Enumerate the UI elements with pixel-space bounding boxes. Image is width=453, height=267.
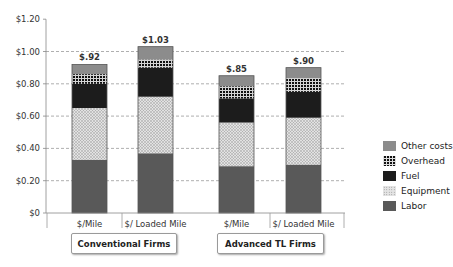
legend-item-fuel: Fuel (383, 168, 453, 183)
bar-stack: $.85 (219, 64, 254, 213)
bar-segment-other-costs (72, 64, 107, 74)
bars: $.92$1.03$.85$.90 (72, 35, 321, 213)
y-axis: $0$0.20$0.40$0.60$0.80$1.00$1.20 (16, 14, 46, 218)
stacked-bar-chart: $0$0.20$0.40$0.60$0.80$1.00$1.20 $.92$1.… (0, 0, 453, 267)
bar-segment-fuel (72, 84, 107, 108)
y-tick-label: $0.60 (16, 111, 40, 121)
bar-segment-labor (72, 160, 107, 213)
y-tick-label: $0.40 (16, 143, 40, 153)
bar-segment-labor (138, 153, 173, 213)
labor-swatch-icon (383, 201, 396, 211)
legend-item-labor: Labor (383, 198, 453, 213)
group-label-advanced-tl-firms: Advanced TL Firms (217, 233, 324, 254)
bar-stack: $.90 (286, 56, 321, 213)
group-label-conventional-firms: Conventional Firms (71, 233, 177, 254)
bar-stack: $.92 (72, 52, 107, 213)
bar-segment-overhead (219, 86, 254, 98)
bar-total-label: $1.03 (142, 35, 169, 45)
bar-stack: $1.03 (138, 35, 173, 213)
legend-item-overhead: Overhead (383, 153, 453, 168)
y-tick-label: $1.20 (16, 14, 40, 24)
bar-segment-other-costs (286, 68, 321, 78)
bar-segment-other-costs (138, 47, 173, 60)
category-label: $/ Loaded Mile (273, 219, 335, 229)
category-label: $/Mile (224, 219, 250, 229)
other-costs-swatch-icon (383, 141, 396, 151)
bar-segment-equipment (286, 118, 321, 165)
bar-segment-equipment (138, 97, 173, 154)
category-label: $/Mile (77, 219, 103, 229)
bar-segment-other-costs (219, 76, 254, 86)
bar-total-label: $.85 (226, 64, 247, 74)
bar-total-label: $.90 (293, 56, 314, 66)
bar-segment-fuel (138, 68, 173, 97)
legend-item-other-costs: Other costs (383, 138, 453, 153)
y-tick-label: $0.20 (16, 176, 40, 186)
bar-segment-overhead (72, 74, 107, 84)
bar-segment-overhead (138, 60, 173, 68)
bar-segment-equipment (72, 108, 107, 160)
legend-item-equipment: Equipment (383, 183, 453, 198)
bar-segment-fuel (286, 92, 321, 118)
category-label: $/ Loaded Mile (125, 219, 187, 229)
equipment-swatch-icon (383, 186, 396, 196)
bar-segment-fuel (219, 98, 254, 122)
x-axis: $/Mile$/ Loaded Mile$/Mile$/ Loaded Mile (46, 213, 345, 229)
bar-segment-equipment (219, 123, 254, 167)
overhead-swatch-icon (383, 156, 396, 166)
bar-total-label: $.92 (79, 52, 100, 62)
y-tick-label: $0 (29, 208, 40, 218)
y-tick-label: $0.80 (16, 79, 40, 89)
bar-segment-overhead (286, 78, 321, 92)
bar-segment-labor (286, 165, 321, 213)
bar-segment-labor (219, 166, 254, 213)
legend: Other costs Overhead Fuel Equipment Labo… (383, 138, 453, 213)
y-tick-label: $1.00 (16, 47, 40, 57)
fuel-swatch-icon (383, 171, 396, 181)
